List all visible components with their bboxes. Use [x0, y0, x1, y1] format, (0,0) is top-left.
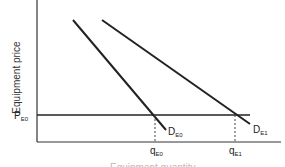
- label-pe0: PE0: [14, 110, 29, 122]
- label-de1: DE1: [253, 124, 268, 136]
- label-qe1: qE1: [229, 145, 243, 157]
- demand-curve-de0: [73, 20, 166, 130]
- chart-canvas: PE0 DE0 DE1 qE0 qE1: [0, 0, 285, 167]
- label-de0: DE0: [168, 126, 183, 138]
- demand-curve-de1: [102, 20, 250, 124]
- label-qe0: qE0: [150, 145, 164, 157]
